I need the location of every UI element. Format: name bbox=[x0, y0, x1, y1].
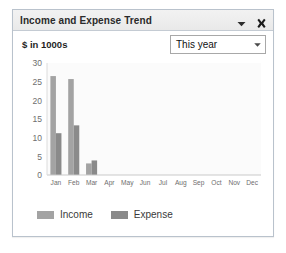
bar[interactable] bbox=[68, 79, 74, 175]
x-tick-label: Nov bbox=[228, 179, 240, 186]
y-tick-label: 10 bbox=[33, 133, 43, 143]
titlebar-actions bbox=[236, 10, 267, 30]
chevron-down-icon[interactable] bbox=[236, 15, 247, 26]
x-tick-label: Oct bbox=[211, 179, 221, 186]
x-tick-label: Dec bbox=[246, 179, 258, 186]
date-range-select[interactable]: This year bbox=[170, 35, 266, 54]
x-tick-label: Sep bbox=[193, 179, 205, 187]
chart-area: 051015202530 JanFebMarAprMayJunJulAugSep… bbox=[17, 57, 265, 197]
widget-subheader: $ in 1000s This year bbox=[13, 31, 273, 57]
close-icon[interactable] bbox=[256, 15, 267, 26]
legend-label-expense: Expense bbox=[134, 209, 173, 220]
x-tick-label: Apr bbox=[104, 179, 115, 187]
bar[interactable] bbox=[86, 163, 92, 175]
x-tick-label: Feb bbox=[68, 179, 80, 186]
y-tick-label: 5 bbox=[37, 152, 42, 162]
y-tick-label: 30 bbox=[33, 58, 43, 68]
legend-item-income[interactable]: Income bbox=[37, 209, 93, 220]
x-tick-label: Jun bbox=[140, 179, 151, 186]
x-tick-label: May bbox=[121, 179, 134, 187]
x-axis-ticks: JanFebMarAprMayJunJulAugSepOctNovDec bbox=[51, 179, 259, 187]
chart-legend: Income Expense bbox=[13, 209, 273, 220]
widget-titlebar: Income and Expense Trend bbox=[13, 10, 273, 31]
legend-label-income: Income bbox=[60, 209, 93, 220]
legend-swatch-expense bbox=[111, 211, 128, 219]
x-tick-label: Aug bbox=[175, 179, 187, 187]
y-axis-ticks: 051015202530 bbox=[33, 58, 43, 180]
bar[interactable] bbox=[56, 133, 62, 175]
y-tick-label: 0 bbox=[37, 170, 42, 180]
date-range-value: This year bbox=[171, 39, 249, 50]
bar[interactable] bbox=[50, 76, 56, 175]
bar[interactable] bbox=[92, 160, 98, 175]
y-tick-label: 15 bbox=[33, 114, 43, 124]
y-tick-label: 25 bbox=[33, 77, 43, 87]
bar-chart: 051015202530 JanFebMarAprMayJunJulAugSep… bbox=[17, 57, 267, 197]
legend-swatch-income bbox=[37, 211, 54, 219]
widget-title: Income and Expense Trend bbox=[13, 15, 152, 26]
y-tick-label: 20 bbox=[33, 96, 43, 106]
chevron-down-icon[interactable] bbox=[249, 36, 265, 53]
x-tick-label: Mar bbox=[86, 179, 98, 186]
bar[interactable] bbox=[74, 125, 80, 175]
x-tick-label: Jan bbox=[51, 179, 62, 186]
units-label: $ in 1000s bbox=[13, 39, 67, 50]
x-tick-label: Jul bbox=[159, 179, 168, 186]
income-expense-trend-widget: Income and Expense Trend $ in 1000s This… bbox=[12, 9, 274, 237]
legend-item-expense[interactable]: Expense bbox=[111, 209, 173, 220]
